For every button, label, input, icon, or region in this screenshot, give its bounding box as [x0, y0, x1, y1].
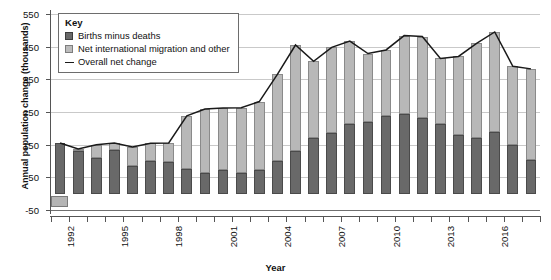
bar-segment-net-migration	[308, 61, 319, 137]
legend-label-natural-change: Births minus deaths	[78, 30, 160, 41]
y-axis-tick-label: -50	[25, 205, 39, 216]
x-axis-tick	[214, 217, 215, 222]
y-axis-tick: 450	[46, 47, 51, 48]
bar-segment-net-migration	[399, 36, 410, 114]
bar-group	[399, 36, 410, 194]
y-axis-tick: 50	[46, 177, 51, 178]
bar-segment-net-migration	[127, 147, 138, 166]
legend-label-overall-net-change: Overall net change	[78, 56, 157, 67]
bar-segment-net-migration	[254, 102, 265, 170]
x-axis-tick	[449, 217, 450, 222]
bar-segment-net-migration	[526, 69, 537, 160]
x-axis-tick	[431, 217, 432, 222]
legend-swatch-icon-natural-change	[65, 32, 73, 40]
x-axis-tick	[468, 217, 469, 222]
legend-title: Key	[65, 17, 230, 28]
x-axis-tick-label: 1992	[65, 226, 76, 247]
bar-segment-births-minus-deaths	[127, 166, 138, 194]
legend-swatch-icon-net-migration	[65, 45, 73, 53]
bar-group	[435, 58, 446, 193]
bar-segment-net-migration	[507, 66, 518, 145]
bar-group	[127, 147, 138, 194]
bar-segment-births-minus-deaths	[290, 151, 301, 193]
y-axis-tick-label: 450	[23, 41, 39, 52]
bar-segment-net-migration	[489, 32, 500, 132]
origin-marker-box	[51, 196, 68, 207]
bar-segment-net-migration	[236, 108, 247, 173]
bar-group	[200, 109, 211, 194]
bar-segment-births-minus-deaths	[109, 150, 120, 193]
bar-group	[507, 66, 518, 193]
x-axis-tick	[178, 217, 179, 222]
x-axis-tick	[123, 217, 124, 222]
x-axis-tick-label: 1995	[119, 226, 130, 247]
bar-segment-net-migration	[417, 37, 428, 118]
bar-group	[272, 74, 283, 193]
population-change-chart: Annual population change (thousands) Yea…	[0, 0, 551, 280]
bar-segment-births-minus-deaths	[145, 161, 156, 194]
legend-item-net-migration: Net international migration and other	[65, 42, 230, 55]
x-axis-tick	[323, 217, 324, 222]
x-axis-tick	[196, 217, 197, 222]
bar-segment-births-minus-deaths	[308, 138, 319, 194]
x-axis-title: Year	[0, 262, 551, 273]
bar-segment-births-minus-deaths	[163, 162, 174, 194]
bar-segment-net-migration	[326, 47, 337, 133]
x-axis-tick	[341, 217, 342, 222]
legend-item-overall-net-change: Overall net change	[65, 55, 230, 68]
y-axis-tick: 550	[46, 14, 51, 15]
x-axis-tick-label: 2016	[499, 226, 510, 247]
y-axis-tick: -50	[46, 210, 51, 211]
bar-group	[91, 145, 102, 194]
bar-segment-net-migration	[363, 54, 374, 122]
y-axis-tick-label: 550	[23, 9, 39, 20]
legend-label-net-migration: Net international migration and other	[78, 43, 230, 54]
bar-group	[218, 108, 229, 194]
bar-segment-net-migration	[272, 74, 283, 161]
bar-group	[290, 45, 301, 194]
bar-segment-births-minus-deaths	[254, 170, 265, 194]
x-axis-tick-label: 1998	[173, 226, 184, 247]
x-axis-tick	[160, 217, 161, 222]
bar-group	[181, 116, 192, 194]
bar-segment-net-migration	[109, 143, 120, 150]
bar-segment-net-migration	[290, 45, 301, 151]
gridline	[51, 210, 540, 211]
bar-segment-births-minus-deaths	[417, 118, 428, 194]
x-axis-tick	[232, 217, 233, 222]
bar-group	[526, 69, 537, 194]
x-axis-tick-label: 2010	[391, 226, 402, 247]
y-axis-tick-label: 150	[23, 139, 39, 150]
bar-segment-births-minus-deaths	[218, 170, 229, 194]
bar-segment-net-migration	[91, 145, 102, 158]
bar-segment-net-migration	[471, 43, 482, 138]
bar-segment-births-minus-deaths	[272, 161, 283, 194]
y-axis-tick-label: 350	[23, 74, 39, 85]
x-axis-tick	[105, 217, 106, 222]
x-axis-tick	[359, 217, 360, 222]
y-axis-tick: 350	[46, 79, 51, 80]
bar-segment-births-minus-deaths	[471, 138, 482, 194]
bar-segment-net-migration	[181, 116, 192, 169]
bar-segment-net-migration	[145, 143, 156, 160]
x-axis-tick-label: 2007	[336, 226, 347, 247]
bar-segment-births-minus-deaths	[399, 114, 410, 194]
x-axis-tick	[250, 217, 251, 222]
bar-group	[363, 54, 374, 194]
bar-segment-births-minus-deaths	[200, 173, 211, 193]
x-axis-tick-label: 2004	[282, 226, 293, 247]
bar-segment-births-minus-deaths	[435, 124, 446, 193]
bar-segment-net-migration	[381, 50, 392, 116]
legend-item-births-minus-deaths: Births minus deaths	[65, 29, 230, 42]
bar-group	[55, 143, 66, 194]
x-axis-tick	[540, 217, 541, 222]
x-axis-tick	[504, 217, 505, 222]
bar-group	[145, 143, 156, 193]
bar-segment-births-minus-deaths	[526, 160, 537, 193]
bar-segment-births-minus-deaths	[73, 151, 84, 193]
bar-segment-births-minus-deaths	[507, 145, 518, 193]
y-axis-tick: 150	[46, 145, 51, 146]
bar-group	[344, 41, 355, 194]
x-axis-tick	[268, 217, 269, 222]
x-axis-tick	[87, 217, 88, 222]
